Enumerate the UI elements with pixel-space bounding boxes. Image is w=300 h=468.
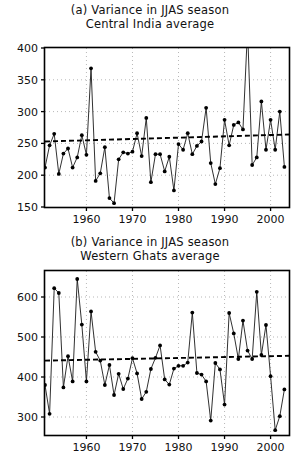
panel-b-y-tick-labels: 300400500600 bbox=[17, 291, 38, 424]
panel-b-plot: 300400500600 19601970198019902000 bbox=[0, 232, 300, 468]
svg-text:1960: 1960 bbox=[72, 213, 100, 226]
svg-text:1960: 1960 bbox=[72, 441, 100, 454]
panel-a-data-markers bbox=[43, 27, 286, 205]
panel-b-data-layer bbox=[43, 277, 289, 432]
svg-text:1970: 1970 bbox=[118, 213, 146, 226]
panel-a-x-tick-labels: 19601970198019902000 bbox=[72, 213, 284, 226]
figure-root: (a) Variance in JJAS season Central Indi… bbox=[0, 0, 300, 468]
chart-panel-a: (a) Variance in JJAS season Central Indi… bbox=[0, 0, 300, 232]
panel-a-tickmarks bbox=[41, 48, 271, 211]
panel-a-data-line bbox=[45, 29, 284, 203]
svg-text:150: 150 bbox=[17, 201, 38, 214]
svg-text:300: 300 bbox=[17, 106, 38, 119]
panel-a-plot: 150200250300350400 19601970198019902000 bbox=[0, 0, 300, 232]
svg-text:600: 600 bbox=[17, 291, 38, 304]
svg-text:2000: 2000 bbox=[257, 441, 285, 454]
svg-text:1980: 1980 bbox=[165, 213, 193, 226]
panel-a-gridlines bbox=[45, 48, 289, 207]
chart-panel-b: (b) Variance in JJAS season Western Ghat… bbox=[0, 232, 300, 468]
svg-text:2000: 2000 bbox=[257, 213, 285, 226]
svg-text:300: 300 bbox=[17, 411, 38, 424]
svg-text:500: 500 bbox=[17, 331, 38, 344]
svg-text:1990: 1990 bbox=[211, 441, 239, 454]
svg-text:200: 200 bbox=[17, 169, 38, 182]
svg-text:400: 400 bbox=[17, 371, 38, 384]
svg-text:400: 400 bbox=[17, 42, 38, 55]
svg-text:1990: 1990 bbox=[211, 213, 239, 226]
panel-b-data-line bbox=[45, 279, 284, 430]
svg-text:350: 350 bbox=[17, 74, 38, 87]
svg-text:1970: 1970 bbox=[118, 441, 146, 454]
panel-b-x-tick-labels: 19601970198019902000 bbox=[72, 441, 284, 454]
panel-a-data-layer bbox=[43, 27, 289, 205]
panel-a-axes-frame bbox=[45, 48, 290, 208]
svg-text:250: 250 bbox=[17, 137, 38, 150]
svg-text:1980: 1980 bbox=[165, 441, 193, 454]
panel-a-y-tick-labels: 150200250300350400 bbox=[17, 42, 38, 214]
